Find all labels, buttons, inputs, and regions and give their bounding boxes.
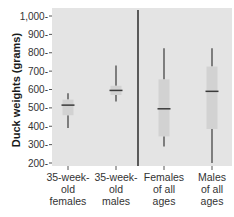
x-category-label: of all <box>201 183 223 195</box>
x-category-label: males <box>102 195 130 207</box>
x-category-label: old <box>61 183 75 195</box>
box-plot-chart: 200-300-400-500-600-700-800-900-1,000- 3… <box>0 0 234 217</box>
x-category-label: Females <box>144 171 184 183</box>
plot-area <box>52 8 232 166</box>
box-iqr <box>159 79 170 136</box>
x-category-label: old <box>109 183 123 195</box>
x-category-label: ages <box>153 195 176 207</box>
y-tick-label: 800- <box>28 47 48 58</box>
y-tick-label: 500- <box>28 102 48 113</box>
y-tick-label: 600- <box>28 84 48 95</box>
plot-background <box>52 8 232 166</box>
y-tick-label: 700- <box>28 66 48 77</box>
y-tick-label: 300- <box>28 139 48 150</box>
x-category-label: Males <box>198 171 226 183</box>
x-axis: 35-week-oldfemales35-week-oldmalesFemale… <box>46 166 226 207</box>
x-category-label: females <box>50 195 87 207</box>
y-axis-label: Duck weights (grams) <box>10 33 22 148</box>
box-iqr <box>207 67 218 129</box>
x-category-label: ages <box>201 195 224 207</box>
y-tick-label: 400- <box>28 121 48 132</box>
y-tick-label: 200- <box>28 158 48 169</box>
y-axis: 200-300-400-500-600-700-800-900-1,000- <box>20 11 52 169</box>
box-iqr <box>63 100 74 116</box>
x-category-label: 35-week- <box>94 171 138 183</box>
x-category-label: 35-week- <box>46 171 90 183</box>
y-tick-label: 1,000- <box>20 11 48 22</box>
x-category-label: of all <box>153 183 175 195</box>
y-tick-label: 900- <box>28 29 48 40</box>
